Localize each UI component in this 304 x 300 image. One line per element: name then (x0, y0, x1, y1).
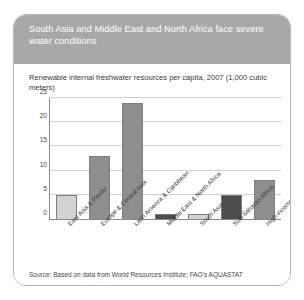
source-note: Source: Based on data from World Resourc… (29, 271, 281, 279)
y-axis-tick-label: 0 (43, 209, 47, 216)
y-axis-tick-label: 15 (40, 136, 47, 143)
y-axis-tick-label: 25 (40, 88, 47, 95)
chart-subtitle: Renewable internal freshwater resources … (29, 73, 277, 94)
y-axis-tick-label: 5 (43, 184, 47, 191)
bar-series (50, 98, 281, 219)
chart-panel: Renewable internal freshwater resources … (14, 64, 290, 286)
x-axis-labels: East Asia & PacificEurope & Central Asia… (49, 222, 281, 272)
y-axis-tick-label: 20 (40, 112, 47, 119)
y-axis-tick-label: 10 (40, 160, 47, 167)
figure-container: South Asia and Middle East and North Afr… (13, 14, 291, 286)
plot-area: 0510152025 (49, 98, 281, 220)
bar-slot (50, 98, 83, 219)
figure-title: South Asia and Middle East and North Afr… (29, 23, 279, 48)
